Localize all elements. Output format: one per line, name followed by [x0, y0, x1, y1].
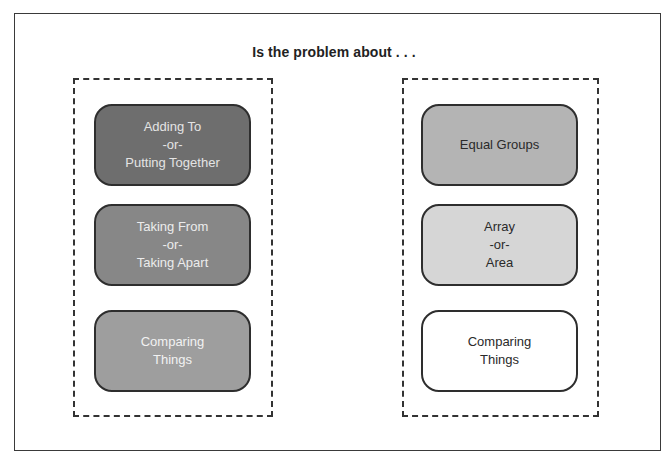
- box-array-or-area: Array -or- Area: [421, 204, 578, 286]
- box-line: -or-: [162, 236, 182, 254]
- box-line: Taking Apart: [137, 254, 209, 272]
- box-line: Array: [484, 218, 515, 236]
- box-adding-to-or-putting-together: Adding To -or- Putting Together: [94, 104, 251, 186]
- box-line: -or-: [489, 236, 509, 254]
- box-taking-from-or-taking-apart: Taking From -or- Taking Apart: [94, 204, 251, 286]
- box-line: Things: [153, 351, 192, 369]
- box-line: Things: [480, 351, 519, 369]
- box-line: Adding To: [144, 118, 202, 136]
- box-comparing-things-left: Comparing Things: [94, 310, 251, 392]
- box-equal-groups: Equal Groups: [421, 104, 578, 186]
- box-line: Comparing: [468, 333, 532, 351]
- box-line: Area: [486, 254, 513, 272]
- box-line: -or-: [162, 136, 182, 154]
- box-comparing-things-right: Comparing Things: [421, 310, 578, 392]
- box-line: Taking From: [137, 218, 209, 236]
- box-line: Equal Groups: [460, 136, 540, 154]
- box-line: Comparing: [141, 333, 205, 351]
- box-line: Putting Together: [125, 154, 219, 172]
- diagram-title: Is the problem about . . .: [0, 44, 668, 60]
